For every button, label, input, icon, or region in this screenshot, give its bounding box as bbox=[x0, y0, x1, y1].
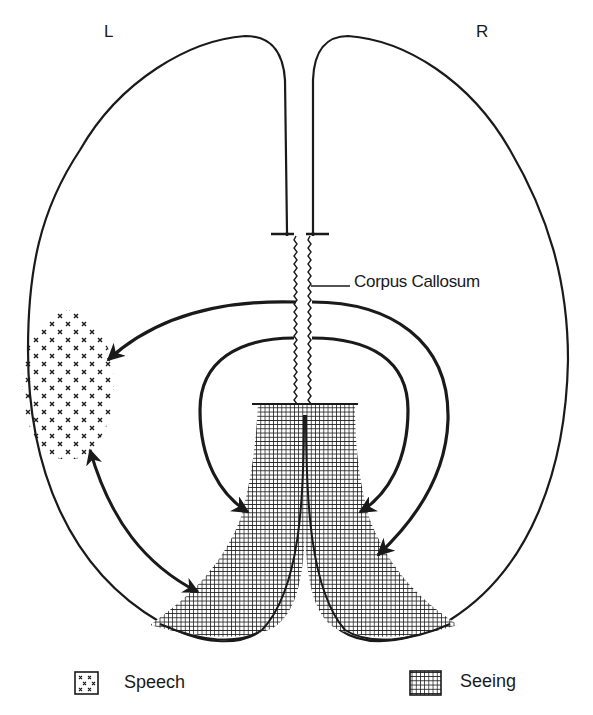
seeing-region-left bbox=[150, 404, 305, 637]
corpus-callosum-label: Corpus Callosum bbox=[354, 272, 480, 292]
legend-speech-label: Speech bbox=[124, 672, 185, 693]
corpus-callosum-cap-right bbox=[306, 232, 329, 236]
arrow-speech-to-seeing-double bbox=[90, 450, 198, 592]
legend-seeing-label: Seeing bbox=[460, 671, 516, 692]
brain-hemisphere-diagram bbox=[0, 0, 593, 715]
corpus-callosum-right-edge bbox=[308, 236, 311, 404]
right-hemisphere-label: R bbox=[476, 22, 488, 42]
arrow-outer-to-speech bbox=[108, 302, 296, 360]
corpus-callosum-left-edge bbox=[294, 236, 297, 404]
left-hemisphere-label: L bbox=[104, 22, 113, 42]
legend-seeing-swatch bbox=[410, 671, 441, 695]
corpus-callosum-cap-left bbox=[271, 232, 294, 236]
speech-region bbox=[22, 310, 114, 460]
